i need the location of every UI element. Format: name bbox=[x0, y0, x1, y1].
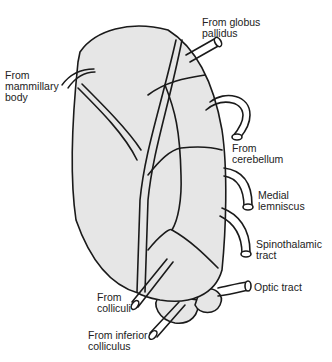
label-optic-tract: Optic tract bbox=[254, 282, 302, 293]
label-cerebellum: From cerebellum bbox=[232, 143, 283, 165]
label-medial-lemniscus: Medial lemniscus bbox=[258, 190, 305, 212]
label-globus-pallidus: From globus pallidus bbox=[202, 17, 260, 39]
thalamus-illustration bbox=[0, 0, 332, 362]
thalamus-body bbox=[72, 26, 225, 301]
label-colliculi: From colliculi bbox=[97, 292, 131, 314]
label-inferior-colliculus: From inferior colliculus bbox=[88, 330, 148, 352]
thalamus-diagram: From globus pallidus From mammillary bod… bbox=[0, 0, 332, 362]
label-spinothalamic-tract: Spinothalamic tract bbox=[256, 239, 322, 261]
label-mammillary-body: From mammillary body bbox=[5, 70, 59, 103]
